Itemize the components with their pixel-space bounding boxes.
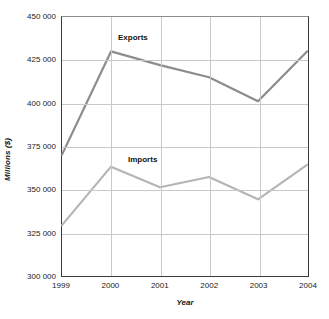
x-axis-tick-label: 2003 xyxy=(250,281,268,290)
y-axis-title-label: Millions ($) xyxy=(3,138,12,181)
x-axis-tick-label: 2004 xyxy=(299,281,317,290)
y-axis-title: Millions ($) xyxy=(0,0,14,319)
y-axis-tick-label: 325 000 xyxy=(27,228,56,237)
y-axis-tick-label: 400 000 xyxy=(27,98,56,107)
gridline-vertical xyxy=(161,17,162,276)
x-axis-title: Year xyxy=(61,298,309,307)
x-axis-tick-label: 1999 xyxy=(52,281,70,290)
y-axis-tick-label: 350 000 xyxy=(27,185,56,194)
y-axis-tick-label: 450 000 xyxy=(27,12,56,21)
gridline-vertical xyxy=(210,17,211,276)
x-axis-tick-label: 2002 xyxy=(200,281,218,290)
gridline-horizontal xyxy=(62,190,308,191)
gridline-horizontal xyxy=(62,234,308,235)
plot-area: Exports Imports xyxy=(61,16,309,277)
y-axis-tick-labels: 450 000425 000400 000375 000350 000325 0… xyxy=(14,16,60,277)
gridline-vertical xyxy=(111,17,112,276)
x-axis-tick-label: 2001 xyxy=(151,281,169,290)
x-axis-tick-label: 2000 xyxy=(101,281,119,290)
y-axis-tick-label: 425 000 xyxy=(27,55,56,64)
series-line-imports xyxy=(62,165,307,225)
series-label-imports: Imports xyxy=(128,155,157,164)
x-axis-tick-labels: 199920002001200220032004 xyxy=(61,281,309,295)
gridline-horizontal xyxy=(62,104,308,105)
gridline-vertical xyxy=(260,17,261,276)
gridline-horizontal xyxy=(62,147,308,148)
line-chart: Millions ($) 450 000425 000400 000375 00… xyxy=(0,0,329,319)
y-axis-tick-label: 375 000 xyxy=(27,142,56,151)
y-axis-tick-label: 300 000 xyxy=(27,272,56,281)
series-label-exports: Exports xyxy=(118,33,148,42)
gridline-horizontal xyxy=(62,60,308,61)
